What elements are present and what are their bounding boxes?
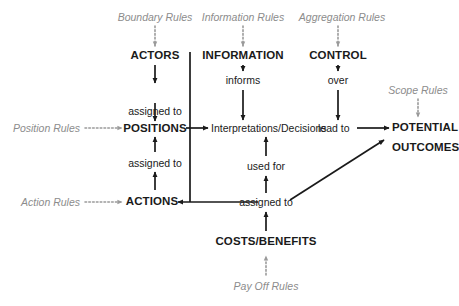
label-actors-assigned-to: assigned to [128, 106, 182, 117]
iad-framework-diagram: Boundary Rules Information Rules Aggrega… [0, 0, 459, 306]
label-scope-rules: Scope Rules [388, 85, 448, 96]
node-actions: ACTIONS [126, 196, 178, 208]
node-costs-benefits: COSTS/BENEFITS [215, 236, 316, 248]
label-position-rules: Position Rules [13, 123, 80, 134]
node-outcomes: OUTCOMES [392, 142, 459, 154]
node-potential: POTENTIAL [392, 122, 458, 134]
diagram-connectors [0, 0, 459, 306]
label-aggregation-rules: Aggregation Rules [299, 12, 385, 23]
label-costs-assigned-to: assigned to [239, 197, 293, 208]
node-control: CONTROL [309, 50, 367, 62]
node-positions: POSITIONS [123, 123, 187, 135]
label-over: over [328, 75, 348, 86]
label-informs: informs [226, 75, 260, 86]
label-actions-assigned-to: assigned to [128, 158, 182, 169]
label-payoff-rules: Pay Off Rules [234, 281, 299, 292]
node-information: INFORMATION [202, 50, 283, 62]
label-boundary-rules: Boundary Rules [118, 12, 193, 23]
node-actors: ACTORS [131, 50, 180, 62]
label-action-rules: Action Rules [21, 197, 80, 208]
label-used-for: used for [247, 161, 285, 172]
node-interpretations-decisions: Interpretations/Decisions [211, 123, 327, 134]
arrow-assigned-to-outcomes-diagonal [290, 140, 384, 200]
label-lead-to: lead to [318, 123, 350, 134]
label-information-rules: Information Rules [202, 12, 284, 23]
